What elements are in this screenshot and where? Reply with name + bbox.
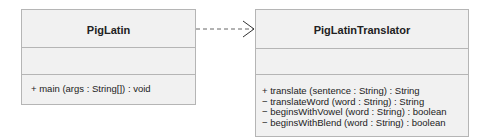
operations-compartment: + translate (sentence : String) : String… bbox=[256, 75, 468, 128]
operation: + translate (sentence : String) : String bbox=[262, 86, 468, 97]
operation: − beginsWithBlend (word : String) : bool… bbox=[262, 118, 468, 129]
operation: − beginsWithVowel (word : String) : bool… bbox=[262, 107, 468, 118]
class-piglatintranslator: PigLatinTranslator + translate (sentence… bbox=[255, 9, 469, 137]
class-name: PigLatinTranslator bbox=[256, 10, 468, 49]
attributes-compartment bbox=[256, 49, 468, 75]
